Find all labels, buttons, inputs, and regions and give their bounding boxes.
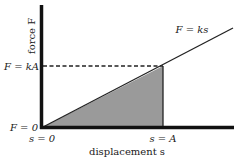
y-tick-kA: F = kA	[3, 61, 39, 72]
x-tick-A: s = A	[149, 133, 176, 144]
y-tick-origin: F = 0	[9, 122, 39, 133]
line-label: F = ks	[175, 24, 209, 35]
x-axis-label: displacement s	[89, 146, 165, 157]
force-displacement-diagram: force F F = ks F = kA F = 0 s = 0 s = A …	[0, 0, 242, 161]
y-axis-label: force F	[26, 18, 37, 54]
x-tick-origin: s = 0	[29, 133, 56, 144]
